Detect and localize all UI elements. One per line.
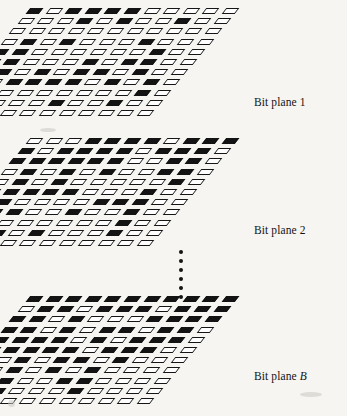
bit-cell: [168, 49, 186, 55]
bit-cell: [47, 230, 65, 236]
bit-cell: [126, 28, 144, 34]
plane-label-prefix: Bit plane: [254, 96, 300, 108]
bit-cell: [0, 378, 15, 384]
bit-cell: [26, 8, 44, 14]
bit-cell: [171, 199, 189, 205]
bit-cell: [50, 49, 68, 55]
bit-cell: [112, 199, 130, 205]
bit-cell: [33, 357, 51, 363]
bit-cell: [143, 367, 161, 373]
bit-cell: [143, 79, 161, 85]
bit-cell: [65, 8, 83, 14]
bit-cell: [19, 240, 37, 246]
bit-cell: [160, 189, 178, 195]
bit-cell: [163, 296, 181, 302]
bit-cell: [39, 398, 57, 404]
bit-cell: [67, 100, 85, 106]
bit-cell: [151, 199, 169, 205]
bit-cell: [124, 296, 142, 302]
bit-cell: [0, 388, 6, 394]
bit-cell: [70, 337, 88, 343]
bit-cell: [48, 158, 66, 164]
bit-cell: [106, 388, 124, 394]
bit-cell: [0, 39, 18, 45]
bit-cell: [131, 69, 149, 75]
bit-cell: [185, 316, 203, 322]
bit-cell: [16, 378, 34, 384]
bit-cell: [14, 199, 32, 205]
bit-cell: [39, 110, 57, 116]
bit-cell: [0, 59, 1, 65]
bit-cell: [112, 357, 130, 363]
bit-cell: [114, 378, 132, 384]
bit-cell: [14, 69, 32, 75]
bit-cell: [162, 209, 180, 215]
bit-cell: [104, 8, 122, 14]
bit-cell: [103, 79, 121, 85]
plane-label-index: 1: [300, 96, 306, 108]
bit-cell: [81, 59, 99, 65]
bit-cell: [37, 18, 55, 24]
bit-cell: [131, 357, 149, 363]
bit-cell: [45, 209, 63, 215]
bit-cell: [22, 189, 40, 195]
bit-cell: [117, 110, 135, 116]
bit-cell: [134, 90, 152, 96]
bit-cell: [107, 158, 125, 164]
bit-cell: [177, 169, 195, 175]
bit-cell: [182, 138, 200, 144]
bit-cell: [202, 138, 220, 144]
bit-cell: [59, 39, 77, 45]
bit-cell: [20, 169, 38, 175]
bit-cell: [58, 240, 76, 246]
bit-cell: [8, 100, 26, 106]
bit-cell: [56, 306, 74, 312]
bit-cell: [140, 347, 158, 353]
bit-cell: [98, 327, 116, 333]
bit-cell: [0, 337, 9, 343]
bit-cell: [202, 296, 220, 302]
bit-cell: [5, 209, 23, 215]
bit-cell: [79, 169, 97, 175]
bit-cell: [79, 39, 97, 45]
bit-cell: [103, 367, 121, 373]
bit-cell: [48, 28, 66, 34]
bit-cell: [31, 49, 49, 55]
bit-cell: [42, 189, 60, 195]
bit-cell: [28, 158, 46, 164]
bit-cell: [154, 90, 172, 96]
bit-cell: [123, 79, 141, 85]
bit-cell: [73, 69, 91, 75]
bit-cell: [0, 90, 15, 96]
bit-cell: [194, 18, 212, 24]
bit-cell: [157, 327, 175, 333]
bit-cell: [109, 337, 127, 343]
bit-cell: [0, 79, 3, 85]
bit-cell: [19, 110, 37, 116]
bit-cell: [64, 79, 82, 85]
bit-cell: [162, 367, 180, 373]
bit-cell: [39, 39, 57, 45]
bit-cell: [75, 90, 93, 96]
bit-cell: [79, 327, 97, 333]
bit-cell: [140, 59, 158, 65]
bit-cell: [101, 347, 119, 353]
bit-cell: [137, 398, 155, 404]
bit-cell: [0, 169, 18, 175]
bit-cell: [0, 69, 12, 75]
bit-cell: [118, 39, 136, 45]
bit-cell: [87, 316, 105, 322]
vertical-ellipsis-icon: [179, 250, 185, 304]
bit-cell: [59, 327, 77, 333]
bit-cell: [42, 59, 60, 65]
bit-cell: [120, 189, 138, 195]
bit-cell: [67, 28, 85, 34]
bit-cell: [143, 296, 161, 302]
bit-cell: [129, 49, 147, 55]
bit-cell: [123, 367, 141, 373]
bit-cell: [37, 148, 55, 154]
bit-cell: [126, 158, 144, 164]
bit-cell: [78, 398, 96, 404]
bit-cell: [45, 8, 63, 14]
bit-cell: [5, 79, 23, 85]
